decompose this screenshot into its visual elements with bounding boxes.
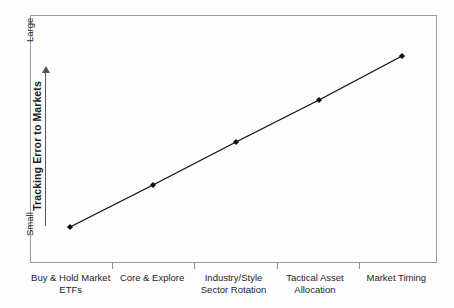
y-axis-label-large: Large <box>24 18 35 42</box>
arrow-shaft <box>45 69 46 226</box>
x-axis-labels: Buy & Hold MarketETFsCore & ExploreIndus… <box>30 272 437 306</box>
x-axis-label-2: Industry/StyleSector Rotation <box>193 272 274 306</box>
x-axis-label-line: Industry/Style <box>193 272 274 284</box>
x-axis-label-line: Tactical Asset <box>274 272 355 284</box>
x-axis-label-line: Market Timing <box>356 272 437 284</box>
chart-container: Tracking Error to Markets Large Small Bu… <box>0 0 454 308</box>
x-axis-label-4: Market Timing <box>356 272 437 306</box>
x-tick-0 <box>112 263 113 269</box>
y-axis-label-small: Small <box>24 212 35 236</box>
x-tick-3 <box>359 263 360 269</box>
x-axis-label-0: Buy & Hold MarketETFs <box>30 272 111 306</box>
x-axis-label-1: Core & Explore <box>111 272 192 306</box>
x-axis-label-line: ETFs <box>30 284 111 296</box>
plot-area <box>30 15 437 263</box>
x-axis-label-line: Core & Explore <box>111 272 192 284</box>
magnitude-arrow <box>38 66 54 226</box>
x-axis-label-line: Allocation <box>274 284 355 296</box>
x-tick-2 <box>277 263 278 269</box>
x-tick-1 <box>194 263 195 269</box>
x-axis-label-line: Sector Rotation <box>193 284 274 296</box>
x-axis-label-3: Tactical AssetAllocation <box>274 272 355 306</box>
x-axis-label-line: Buy & Hold Market <box>30 272 111 284</box>
